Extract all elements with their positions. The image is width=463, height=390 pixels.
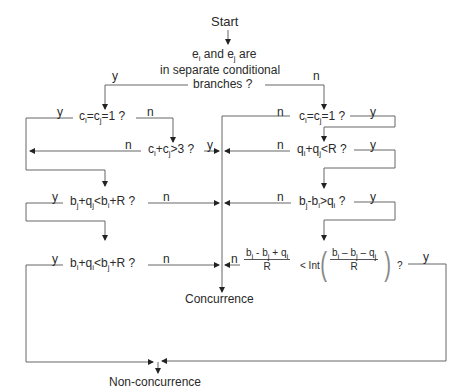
root-no-label: n [313, 70, 320, 82]
root-question-line1: ei and ej are [192, 48, 256, 61]
left-q2-yes-label: y [207, 139, 213, 151]
left-q2-decision: ci+cj>3 ? [148, 143, 194, 156]
right-q4-no-label: n [231, 253, 238, 265]
right-q2-yes-label: y [370, 139, 376, 151]
start-node: Start [211, 15, 238, 28]
left-q1-decision: ci=cj=1 ? [79, 110, 125, 123]
left-q3-decision: bj+qj<bi+R ? [70, 195, 135, 208]
left-q4-decision: bi+qi<bj+R ? [70, 257, 135, 270]
left-q4-no-label: n [163, 253, 170, 265]
left-q1-no-label: n [147, 106, 154, 118]
right-q1-decision: ci=cj=1 ? [299, 110, 345, 123]
left-q2-no-label: n [125, 139, 132, 151]
root-question-line2: in separate conditional [160, 64, 280, 77]
right-q1-yes-label: y [370, 106, 376, 118]
right-q4-operator: < Int [300, 260, 320, 272]
right-q2-no-label: n [277, 139, 284, 151]
right-q4-question-mark: ? [397, 260, 403, 272]
outcome-non-concurrence: Non-concurrence [109, 376, 201, 389]
right-paren: ) [384, 246, 391, 280]
left-q3-no-label: n [163, 191, 170, 203]
right-q3-no-label: n [277, 191, 284, 203]
left-q1-yes-label: y [57, 106, 63, 118]
left-q4-yes-label: y [52, 253, 58, 265]
root-question-line3: branches ? [193, 78, 252, 91]
right-q4-fraction-2: bi – bj – qj R [330, 247, 378, 272]
right-q4-fraction-1: bi - bj + qi R [244, 247, 290, 272]
right-q3-yes-label: y [370, 191, 376, 203]
left-q3-yes-label: y [52, 191, 58, 203]
right-q1-no-label: n [277, 106, 284, 118]
outcome-concurrence: Concurrence [185, 293, 254, 306]
left-paren: ( [320, 246, 327, 280]
right-q3-decision: bj-bi>qi ? [299, 195, 345, 208]
right-q2-decision: qi+qj<R ? [297, 143, 347, 156]
root-yes-label: y [112, 70, 118, 82]
right-q4-yes-label: y [423, 251, 429, 263]
